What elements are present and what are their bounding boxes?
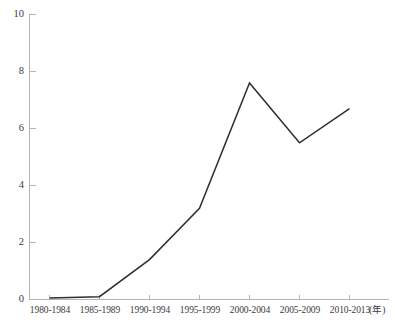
data-series-line	[50, 83, 350, 298]
y-tick-label: 4	[2, 179, 24, 190]
y-tick-label: 10	[2, 8, 24, 19]
y-tick-marks	[30, 15, 36, 300]
chart-plot-area	[0, 0, 395, 331]
y-tick-label: 0	[2, 293, 24, 304]
y-tick-label: 2	[2, 236, 24, 247]
y-tick-label: 8	[2, 65, 24, 76]
y-tick-label: 6	[2, 122, 24, 133]
x-axis-unit-label: (年)	[369, 305, 385, 316]
line-chart: 10 8 6 4 2 0 1980-1984 1985-1989 1990-19…	[0, 0, 395, 331]
